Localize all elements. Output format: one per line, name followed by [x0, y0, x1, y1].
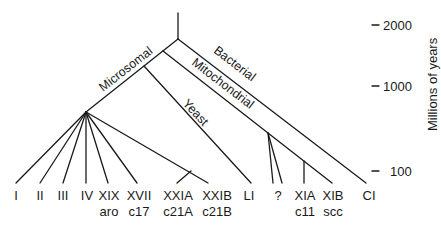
sublabel-c21B: c21B	[202, 204, 232, 219]
sublabel-scc: scc	[323, 204, 343, 219]
tick-label-100: 100	[390, 164, 412, 179]
sublabel-c21A: c21A	[163, 204, 193, 219]
time-axis: 2000 1000 100 Millions of years	[372, 18, 440, 179]
leaf-CI: CI	[363, 188, 376, 203]
leaf-XIA: XIA	[295, 188, 316, 203]
axis-label: Millions of years	[425, 37, 440, 131]
leaf-XVII: XVII	[127, 188, 152, 203]
leaf-sublabels: aro c17 c21A c21B c11 scc	[100, 204, 344, 219]
sublabel-aro: aro	[100, 204, 119, 219]
microsomal-fan	[16, 112, 208, 183]
mitochondrial-subtree	[268, 133, 304, 183]
leaf-XIX: XIX	[99, 188, 120, 203]
sublabel-c17: c17	[129, 204, 150, 219]
sublabel-c11: c11	[295, 204, 315, 219]
phylogenetic-tree: Microsomal Yeast Mitochondrial Bacterial…	[0, 0, 441, 225]
yeast-label: Yeast	[180, 96, 212, 128]
tick-label-1000: 1000	[383, 79, 412, 94]
leaf-IV: IV	[81, 188, 94, 203]
leaf-I: I	[14, 188, 18, 203]
leaf-XXIB: XXIB	[202, 188, 232, 203]
leaf-LI: LI	[244, 188, 255, 203]
leaf-XIB: XIB	[323, 188, 344, 203]
leaf-III: III	[58, 188, 69, 203]
leaf-unknown: ?	[274, 188, 281, 203]
leaf-XXIA: XXIA	[163, 188, 193, 203]
leaf-II: II	[36, 188, 43, 203]
tick-label-2000: 2000	[383, 18, 412, 33]
leaf-labels: I II III IV XIX XVII XXIA XXIB LI ? XIA …	[14, 188, 375, 203]
microsomal-branch	[86, 39, 178, 112]
